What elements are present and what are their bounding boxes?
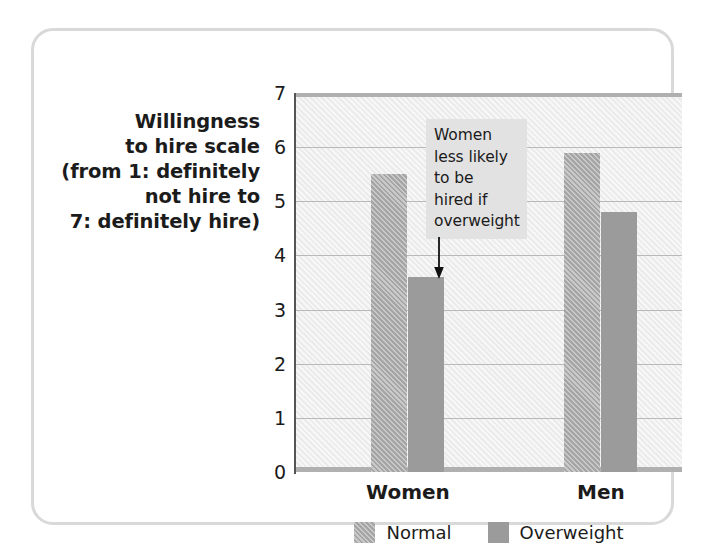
- y-axis-tick-label: 4: [246, 244, 286, 266]
- x-axis-category-label: Men: [577, 480, 625, 504]
- down-arrow-icon: [432, 237, 446, 279]
- y-axis-tick-label: 3: [246, 299, 286, 321]
- bar-women-overweight: [408, 277, 444, 472]
- annotation-callout: Women less likely to be hired if overwei…: [426, 119, 527, 239]
- y-axis-title: Willingness to hire scale (from 1: defin…: [48, 109, 260, 234]
- x-axis-category-labels: WomenMen: [296, 480, 682, 510]
- bar-men-overweight: [601, 212, 637, 472]
- y-axis-tick-label: 7: [246, 82, 286, 104]
- y-axis-tick-label: 0: [246, 461, 286, 483]
- y-axis-tick-label: 6: [246, 136, 286, 158]
- overweight-swatch-icon: [488, 522, 509, 543]
- y-axis-tick-label: 5: [246, 190, 286, 212]
- x-axis-category-label: Women: [366, 480, 450, 504]
- bar-women-normal: [371, 174, 407, 472]
- bar-men-normal: [564, 153, 600, 472]
- legend-item-label: Normal: [386, 522, 451, 543]
- chart-legend: NormalOverweight: [296, 517, 682, 547]
- legend-item-normal[interactable]: Normal: [354, 522, 451, 543]
- legend-item-overweight[interactable]: Overweight: [488, 522, 624, 543]
- y-axis-tick-label: 2: [246, 353, 286, 375]
- gridline: [296, 93, 682, 97]
- y-axis-tick-label: 1: [246, 407, 286, 429]
- y-axis-tick-labels: 01234567: [240, 93, 286, 472]
- normal-swatch-icon: [354, 522, 375, 543]
- legend-item-label: Overweight: [520, 522, 624, 543]
- figure-card: Willingness to hire scale (from 1: defin…: [31, 28, 674, 525]
